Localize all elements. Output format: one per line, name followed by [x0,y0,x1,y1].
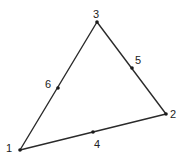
node-5 [130,66,134,70]
node-label-5: 5 [135,54,141,66]
node-label-6: 6 [45,78,51,90]
triangle-element-diagram: 1 2 3 4 5 6 [0,0,188,158]
node-label-4: 4 [94,138,100,150]
node-6 [56,86,60,90]
node-label-1: 1 [6,142,12,154]
node-1 [18,148,22,152]
node-label-2: 2 [170,108,176,120]
node-3 [95,20,99,24]
node-label-3: 3 [93,8,99,20]
node-2 [164,112,168,116]
node-4 [91,130,95,134]
edge-3-1 [20,22,97,150]
